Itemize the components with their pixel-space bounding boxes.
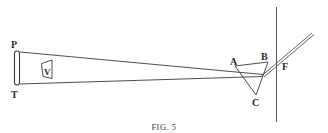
label-p: P bbox=[11, 39, 17, 50]
label-b: B bbox=[261, 51, 268, 62]
label-v: V bbox=[44, 67, 51, 77]
ray-bottom bbox=[20, 77, 263, 85]
emergent-ray-2 bbox=[264, 35, 314, 78]
figure-caption: FIG. 5 bbox=[151, 122, 176, 132]
label-f: F bbox=[282, 61, 288, 72]
label-t: T bbox=[11, 89, 18, 100]
label-a: A bbox=[230, 56, 238, 67]
prism-abc bbox=[235, 62, 268, 95]
ray-top bbox=[20, 52, 263, 75]
object-pt bbox=[15, 51, 20, 85]
optics-diagram: P T V A B C F FIG. 5 bbox=[0, 0, 328, 133]
label-c: C bbox=[252, 97, 259, 108]
